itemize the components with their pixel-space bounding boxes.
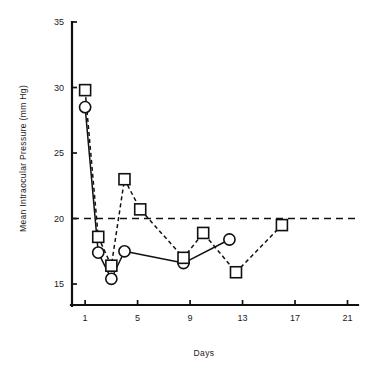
svg-text:Days: Days <box>194 348 215 358</box>
data-point-square <box>80 85 91 96</box>
y-axis-title: Mean Intraocular Pressure (mm Hg) <box>18 85 28 232</box>
data-point-circle <box>224 234 235 245</box>
data-point-circle <box>93 247 104 258</box>
y-tick-label: 30 <box>54 83 64 93</box>
x-tick-label: 17 <box>290 313 300 323</box>
x-tick-label: 21 <box>342 313 352 323</box>
data-point-square <box>93 231 104 242</box>
x-axis-ticks: 159131721 <box>83 300 353 323</box>
chart-figure: Mean Intraocular Pressure (mm Hg) Days 1… <box>0 0 371 377</box>
data-point-circle <box>119 246 130 257</box>
x-tick-label: 9 <box>188 313 193 323</box>
data-point-square <box>230 267 241 278</box>
x-tick-label: 5 <box>135 313 140 323</box>
series-line-square <box>85 90 282 272</box>
data-point-square <box>106 260 117 271</box>
chart-canvas: Mean Intraocular Pressure (mm Hg) Days 1… <box>0 0 371 377</box>
y-axis-ticks: 1520253035 <box>54 17 77 289</box>
data-point-square <box>276 220 287 231</box>
series-line-circle <box>85 107 229 279</box>
y-tick-label: 20 <box>54 214 64 224</box>
y-tick-label: 35 <box>54 17 64 27</box>
svg-text:Mean Intraocular Pressure (mm: Mean Intraocular Pressure (mm Hg) <box>18 85 28 232</box>
data-point-circle <box>80 102 91 113</box>
y-tick-label: 15 <box>54 279 64 289</box>
series-markers <box>80 85 288 285</box>
series-lines <box>85 90 282 279</box>
data-point-circle <box>106 273 117 284</box>
x-tick-label: 1 <box>83 313 88 323</box>
data-point-square <box>178 252 189 263</box>
data-point-square <box>198 227 209 238</box>
data-point-square <box>135 204 146 215</box>
x-axis-title: Days <box>194 348 215 358</box>
data-point-square <box>119 174 130 185</box>
x-tick-label: 13 <box>238 313 248 323</box>
y-tick-label: 25 <box>54 148 64 158</box>
